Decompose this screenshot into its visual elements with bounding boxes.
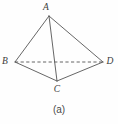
edge-AB <box>15 16 49 62</box>
vertex-label-B: B <box>2 56 8 66</box>
edge-AD <box>49 16 103 62</box>
edge-CD <box>57 62 103 81</box>
vertex-label-D: D <box>106 56 114 66</box>
vertex-label-A: A <box>42 2 49 12</box>
edge-AC <box>49 16 57 81</box>
figure-container: A B C D (a) <box>0 0 118 124</box>
tetrahedron-diagram: A B C D (a) <box>0 0 118 124</box>
edge-BC <box>15 62 57 81</box>
vertex-label-C: C <box>54 84 61 94</box>
figure-caption: (a) <box>53 104 65 115</box>
